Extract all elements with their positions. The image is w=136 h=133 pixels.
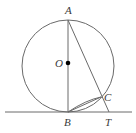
center-dot — [66, 61, 71, 66]
segment-at — [68, 20, 109, 112]
label-b: B — [64, 116, 71, 128]
segment-bc — [68, 97, 101, 112]
geometry-diagram: A O B C T — [0, 0, 136, 133]
label-a: A — [64, 4, 72, 16]
label-o: O — [55, 57, 63, 69]
label-c: C — [104, 91, 112, 103]
label-t: T — [105, 116, 112, 128]
